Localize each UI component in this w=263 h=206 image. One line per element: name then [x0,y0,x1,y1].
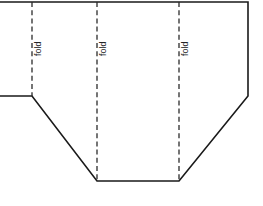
pattern-outline [0,2,248,181]
fold-label-3: fold [180,41,190,56]
pattern-diagram-canvas: fold fold fold [0,0,263,206]
fold-label-1: fold [33,41,43,56]
fold-label-2: fold [98,41,108,56]
fold-pattern-diagram: fold fold fold [0,0,263,206]
